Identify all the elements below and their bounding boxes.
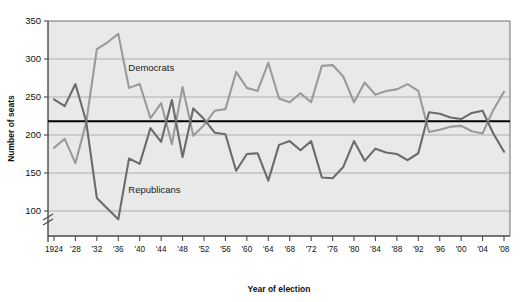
x-tick-label-1948: '48 [177, 245, 188, 254]
x-tick-label-1956: '56 [220, 245, 231, 254]
y-tick-label-200: 200 [25, 129, 41, 140]
x-tick-label-1952: '52 [199, 245, 210, 254]
y-tick-label-300: 300 [25, 53, 41, 64]
y-tick-label-350: 350 [25, 15, 41, 26]
x-tick-label-2008: '08 [499, 245, 510, 254]
x-tick-label-1988: '88 [392, 245, 403, 254]
chart-canvas: 1001502002503003501924'28'32'36'40'44'48… [0, 0, 522, 302]
x-tick-label-1976: '76 [327, 245, 338, 254]
x-tick-label-1972: '72 [306, 245, 317, 254]
x-tick-label-1960: '60 [242, 245, 253, 254]
x-tick-label-1932: '32 [92, 245, 103, 254]
x-tick-label-1944: '44 [156, 245, 167, 254]
x-tick-label-1984: '84 [370, 245, 381, 254]
house-seats-line-chart: 1001502002503003501924'28'32'36'40'44'48… [0, 0, 522, 302]
x-tick-label-1964: '64 [263, 245, 274, 254]
x-tick-label-1980: '80 [349, 245, 360, 254]
x-tick-label-1940: '40 [134, 245, 145, 254]
x-tick-label-1924: 1924 [45, 245, 64, 254]
y-tick-label-250: 250 [25, 91, 41, 102]
x-tick-label-1928: '28 [70, 245, 81, 254]
y-tick-label-100: 100 [25, 205, 41, 216]
x-tick-label-2000: '00 [456, 245, 467, 254]
x-tick-label-2004: '04 [477, 245, 488, 254]
x-tick-label-1968: '68 [284, 245, 295, 254]
annotation-democrats: Democrats [128, 62, 174, 73]
annotation-republicans: Republicans [128, 184, 181, 195]
x-tick-label-1992: '92 [413, 245, 424, 254]
y-axis-title: Number of seats [6, 95, 16, 162]
x-tick-label-1996: '96 [434, 245, 445, 254]
x-axis-title: Year of election [248, 284, 311, 294]
y-tick-label-150: 150 [25, 167, 41, 178]
x-tick-label-1936: '36 [113, 245, 124, 254]
